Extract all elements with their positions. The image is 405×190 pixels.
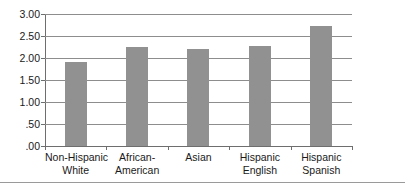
gridline-baseline [45, 146, 352, 147]
bars [45, 14, 352, 146]
x-tick-mark [229, 146, 230, 150]
bar-asian[interactable] [187, 49, 209, 146]
x-label-non-hispanic-white: Non-Hispanic White [45, 151, 106, 176]
bar-chart-figure: 3.00 2.50 2.00 1.50 1.00 .50 .00 [0, 0, 405, 190]
bar-slot [45, 14, 106, 146]
x-tick-mark [291, 146, 292, 150]
x-label-line2: American [106, 164, 167, 177]
x-label-line1: Non-Hispanic [45, 151, 106, 164]
x-tick-mark [106, 146, 107, 150]
y-tick-label: .50 [2, 119, 40, 129]
bar-hispanic-english[interactable] [249, 46, 271, 146]
x-label-line1: Hispanic [291, 151, 352, 164]
y-tick-label: 2.50 [2, 31, 40, 41]
x-label-line2: White [45, 164, 106, 177]
y-tick-label: 3.00 [2, 9, 40, 19]
x-label-line2: Spanish [291, 164, 352, 177]
bar-slot [291, 14, 352, 146]
x-label-hispanic-english: Hispanic English [229, 151, 290, 176]
y-tick-label: .00 [2, 141, 40, 151]
bar-slot [168, 14, 229, 146]
x-label-asian: Asian [168, 151, 229, 164]
x-tick-mark [45, 146, 46, 150]
y-tick-label: 2.00 [2, 53, 40, 63]
x-label-line2: English [229, 164, 290, 177]
bar-african-american[interactable] [126, 47, 148, 146]
y-axis-tick-labels: 3.00 2.50 2.00 1.50 1.00 .50 .00 [0, 0, 40, 190]
bar-non-hispanic-white[interactable] [65, 62, 87, 146]
bar-slot [229, 14, 290, 146]
x-label-line1: Hispanic [229, 151, 290, 164]
x-label-african-american: African- American [106, 151, 167, 176]
y-tick-label: 1.50 [2, 75, 40, 85]
bar-hispanic-spanish[interactable] [310, 26, 332, 146]
x-label-hispanic-spanish: Hispanic Spanish [291, 151, 352, 176]
x-tick-mark [352, 146, 353, 150]
x-label-line1: Asian [168, 151, 229, 164]
bar-slot [106, 14, 167, 146]
x-axis-category-labels: Non-Hispanic White African- American Asi… [45, 151, 352, 185]
plot-area [45, 14, 352, 146]
x-label-line1: African- [106, 151, 167, 164]
bottom-divider-rule [0, 182, 405, 183]
x-tick-mark [168, 146, 169, 150]
y-tick-label: 1.00 [2, 97, 40, 107]
